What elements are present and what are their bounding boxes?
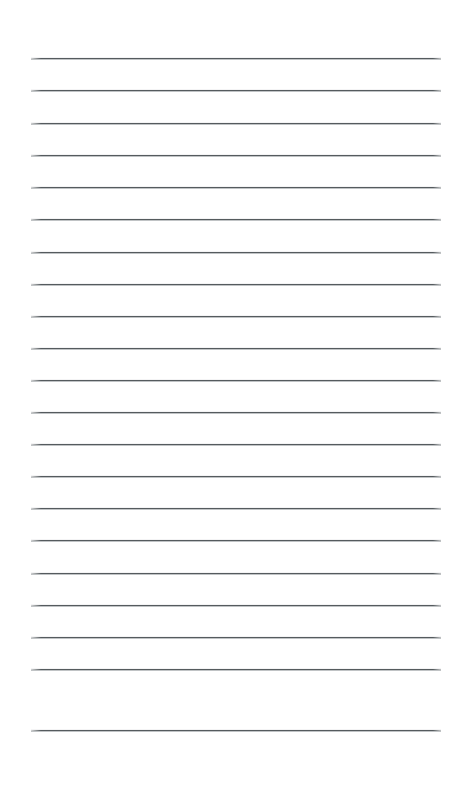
ruled-line [31,730,441,731]
line-left-fade [31,730,41,731]
line-right-fade [433,730,441,731]
lined-paper-page [0,0,459,793]
writing-area[interactable] [31,58,441,730]
